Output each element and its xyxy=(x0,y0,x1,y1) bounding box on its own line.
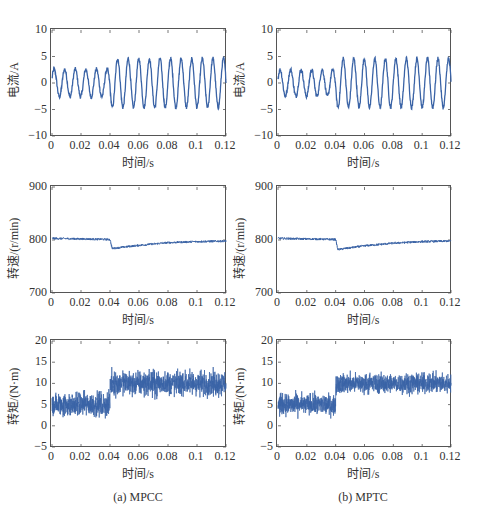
plot-area xyxy=(276,339,451,447)
caption-b: (b) MPTC xyxy=(283,490,443,505)
plot-area xyxy=(50,185,226,293)
y-tick-label: −5 xyxy=(243,103,273,115)
trace-svg xyxy=(277,340,452,448)
x-tick-label: 0.12 xyxy=(205,296,245,308)
y-axis-label: 转矩/(N·m) xyxy=(230,368,248,425)
x-axis-label: 时间/s xyxy=(88,153,188,171)
y-axis-label: 电流/A xyxy=(4,62,22,98)
x-axis-label: 时间/s xyxy=(88,310,188,328)
caption-a: (a) MPCC xyxy=(58,490,218,505)
x-axis-label: 时间/s xyxy=(314,153,414,171)
y-tick-label: 900 xyxy=(17,180,47,192)
y-axis-label: 转速/(r/min) xyxy=(230,218,248,279)
x-tick-label: 0.12 xyxy=(205,139,245,151)
x-tick-label: 0.12 xyxy=(430,450,470,462)
y-tick-label: −5 xyxy=(17,103,47,115)
trace-svg xyxy=(51,186,227,294)
x-tick-label: 0.12 xyxy=(430,296,470,308)
x-tick-label: 0.12 xyxy=(430,139,470,151)
y-tick-label: 700 xyxy=(17,286,47,298)
trace-svg xyxy=(51,29,227,137)
trace-svg xyxy=(277,29,452,137)
data-trace xyxy=(278,237,451,250)
y-tick-label: 20 xyxy=(243,334,273,346)
x-axis-label: 时间/s xyxy=(314,310,414,328)
y-tick-label: 20 xyxy=(17,334,47,346)
y-tick-label: 5 xyxy=(243,50,273,62)
data-trace xyxy=(278,57,451,110)
y-tick-label: −5 xyxy=(17,440,47,452)
data-trace xyxy=(52,57,226,109)
y-tick-label: −10 xyxy=(17,129,47,141)
y-tick-label: −10 xyxy=(243,129,273,141)
x-axis-label: 时间/s xyxy=(88,464,188,482)
y-tick-label: 15 xyxy=(17,355,47,367)
plot-area xyxy=(276,28,451,136)
y-tick-label: 10 xyxy=(17,23,47,35)
y-axis-label: 转矩/(N·m) xyxy=(4,368,22,425)
data-trace xyxy=(52,237,226,249)
y-axis-label: 电流/A xyxy=(230,62,248,98)
y-axis-label: 转速/(r/min) xyxy=(4,218,22,279)
x-tick-label: 0.12 xyxy=(205,450,245,462)
data-trace xyxy=(278,370,451,419)
y-tick-label: 5 xyxy=(17,50,47,62)
trace-svg xyxy=(51,340,227,448)
plot-area xyxy=(50,28,226,136)
plot-area xyxy=(276,185,451,293)
y-tick-label: −5 xyxy=(243,440,273,452)
y-tick-label: 10 xyxy=(243,23,273,35)
x-axis-label: 时间/s xyxy=(314,464,414,482)
trace-svg xyxy=(277,186,452,294)
y-tick-label: 15 xyxy=(243,355,273,367)
y-tick-label: 900 xyxy=(243,180,273,192)
plot-area xyxy=(50,339,226,447)
data-trace xyxy=(52,367,226,418)
y-tick-label: 700 xyxy=(243,286,273,298)
